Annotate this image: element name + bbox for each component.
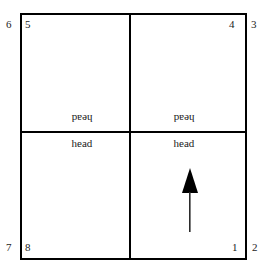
up-arrow-icon [173, 166, 207, 232]
diagram-canvas: 6 5 4 3 7 8 1 2 head head head head [0, 0, 268, 272]
corner-number-bottom-left-outside: 7 [6, 242, 12, 253]
corner-number-top-right-outside: 3 [251, 19, 257, 30]
head-label-lower-left: head [60, 138, 104, 149]
corner-number-bottom-right-outside: 2 [252, 242, 258, 253]
corner-number-top-right-inside: 4 [229, 19, 235, 30]
corner-number-bottom-left-inside: 8 [25, 242, 31, 253]
head-label-upper-left: head [60, 113, 104, 124]
corner-number-bottom-right-inside: 1 [232, 242, 238, 253]
head-label-lower-right: head [162, 138, 206, 149]
head-label-upper-right: head [162, 113, 206, 124]
horizontal-center-divider [20, 131, 247, 133]
corner-number-top-left-inside: 5 [25, 19, 31, 30]
corner-number-top-left-outside: 6 [6, 19, 12, 30]
vertical-center-divider [129, 13, 131, 260]
outer-rectangle [20, 13, 247, 260]
